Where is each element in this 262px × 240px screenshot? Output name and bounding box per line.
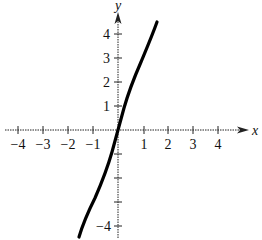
y-axis-label: y <box>113 0 122 13</box>
y-tick-label: 1 <box>103 99 110 114</box>
x-tick-label: −4 <box>11 137 26 152</box>
x-tick-label: −2 <box>61 137 76 152</box>
x-tick-label: 2 <box>165 137 172 152</box>
x-tick-label: 3 <box>190 137 197 152</box>
x-tick-label: 1 <box>141 137 148 152</box>
x-tick-label: −1 <box>86 137 101 152</box>
x-tick-label: −3 <box>36 137 51 152</box>
y-tick-label: 3 <box>103 51 110 66</box>
x-axis-label: x <box>251 123 259 138</box>
y-tick-label: 4 <box>103 27 110 42</box>
x-tick-label: 4 <box>215 137 222 152</box>
y-tick-label: 2 <box>103 75 110 90</box>
y-tick-label: −4 <box>96 219 111 234</box>
chart: −4 −3 −2 −1 1 2 3 4 4 3 2 1 −4 x y <box>0 0 262 240</box>
